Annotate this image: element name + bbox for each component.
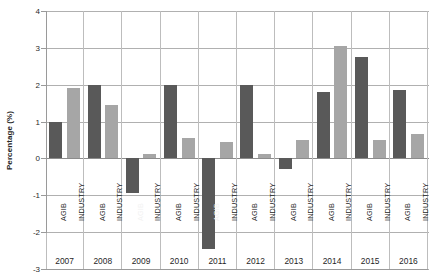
y-axis-tick-label: -3 [22,265,40,274]
category-label: 2013 [284,256,303,266]
y-axis-tick-label: 1 [22,117,40,126]
y-axis-tick-label: -1 [22,191,40,200]
bar-industry-2009 [143,154,156,158]
bar-agib-2016 [393,90,406,158]
bar-industry-2010 [182,138,195,158]
category-label-cell: 2013 [275,233,313,269]
bar-agib-2008 [88,85,101,159]
bar-chart: Percentage (%) 43210-1-2-3 AGIBINDUSTRYA… [0,0,433,280]
bar-series-label: AGIB [365,203,374,221]
bar-series-label: AGIB [212,203,221,221]
category-label-cell: 2016 [390,233,428,269]
bar-series-label: AGIB [174,203,183,221]
bar-agib-2015 [355,57,368,158]
category-label: 2016 [399,256,418,266]
bar-agib-2012 [240,85,253,159]
y-axis-tick-label: 2 [22,80,40,89]
bottom-axis-line [46,269,428,270]
category-label: 2008 [93,256,112,266]
category-label: 2015 [361,256,380,266]
category-label-cell: 2014 [313,233,351,269]
y-axis-tick-label: 4 [22,7,40,16]
category-label-cell: 2007 [46,233,84,269]
category-label-cell: 2011 [199,233,237,269]
category-label: 2009 [132,256,151,266]
category-axis: 2007200820092010201120122013201420152016 [46,233,428,269]
bar-series-label: AGIB [136,203,145,221]
bar-series-label: AGIB [403,203,412,221]
bar-industry-2012 [258,154,271,158]
category-label-cell: 2009 [122,233,160,269]
y-axis-tick-label: -2 [22,228,40,237]
bar-groups: AGIBINDUSTRYAGIBINDUSTRYAGIBINDUSTRYAGIB… [46,11,428,269]
y-axis-title-label: Percentage (%) [6,110,15,169]
category-label-cell: 2010 [161,233,199,269]
bar-industry-2014 [334,46,347,158]
bar-agib-2010 [164,85,177,159]
bar-industry-2011 [220,142,233,159]
bar-industry-2008 [105,105,118,158]
bar-agib-2013 [279,158,292,169]
category-label-cell: 2008 [84,233,122,269]
bar-series-label: AGIB [289,203,298,221]
category-label: 2012 [246,256,265,266]
y-axis-tick-label: 3 [22,43,40,52]
bar-agib-2014 [317,92,330,158]
bar-group [122,11,160,269]
bar-agib-2007 [49,122,62,159]
bar-agib-2009 [126,158,139,193]
bar-industry-2013 [296,140,309,158]
category-label-cell: 2012 [237,233,275,269]
category-label: 2010 [170,256,189,266]
category-label: 2007 [55,256,74,266]
category-label: 2011 [208,256,226,266]
bar-industry-2015 [373,140,386,158]
bar-series-label: AGIB [250,203,259,221]
bar-industry-2007 [67,88,80,158]
bar-series-label: AGIB [327,203,336,221]
bar-series-label: AGIB [98,203,107,221]
bar-series-label: INDUSTRY [421,183,430,221]
category-label: 2014 [323,256,342,266]
y-axis-tick-label: 0 [22,154,40,163]
bar-series-label: AGIB [59,203,68,221]
category-label-cell: 2015 [352,233,390,269]
y-axis-title: Percentage (%) [2,0,18,280]
bar-industry-2016 [411,134,424,158]
